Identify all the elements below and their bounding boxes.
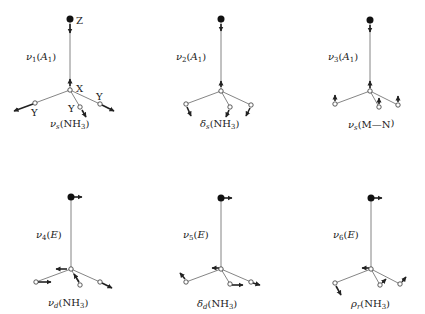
mode-caption: νs(M—N) — [348, 117, 395, 132]
hydrogen-atom — [377, 105, 381, 109]
metal-atom — [367, 17, 374, 24]
displacement-arrow — [253, 283, 260, 285]
hydrogen-atom — [378, 283, 382, 287]
displacement-arrow — [187, 107, 191, 116]
hydrogen-atom — [333, 102, 337, 106]
hydrogen-atom — [33, 101, 37, 105]
displacement-arrow — [246, 108, 250, 116]
displacement-arrow — [336, 286, 341, 295]
hydrogen-atom — [333, 281, 337, 285]
hydrogen-atom — [98, 280, 102, 284]
mode-caption: δd(NH3) — [197, 298, 237, 311]
mode-label: ν1(A1) — [26, 51, 56, 64]
mode-caption: ρr(NH3) — [350, 298, 390, 311]
axis-label-z: Z — [76, 15, 83, 26]
normal-modes-diagram: Z X Y Y Y ν1(A1) νs(NH3) ν2(A1) δs(NH3) — [0, 0, 425, 314]
hydrogen-atom — [249, 103, 253, 107]
mode-panel-nu2: ν2(A1) δs(NH3) — [176, 16, 253, 132]
n-h-bond — [221, 269, 251, 282]
displacement-arrow — [82, 110, 86, 117]
hydrogen-atom — [184, 102, 188, 106]
mode-label: ν2(A1) — [176, 51, 206, 64]
mode-caption: νs(NH3) — [50, 118, 90, 131]
n-h-bond — [335, 269, 371, 283]
mode-panel-nu4: ν4(E) νd(NH3) — [34, 194, 112, 311]
nitrogen-atom — [68, 88, 72, 92]
mode-panel-nu3: ν3(A1) νs(M—N) — [328, 17, 400, 133]
displacement-arrow — [74, 274, 79, 282]
mode-label: ν5(E) — [183, 229, 209, 242]
n-h-bond — [36, 269, 71, 282]
displacement-arrow — [180, 273, 185, 279]
metal-atom — [368, 195, 375, 202]
displacement-arrow — [402, 277, 406, 282]
mode-label: ν4(E) — [36, 229, 62, 242]
nitrogen-atom — [219, 267, 223, 271]
nitrogen-atom — [369, 267, 373, 271]
metal-atom — [218, 195, 225, 202]
hydrogen-atom — [34, 280, 38, 284]
n-h-bond — [186, 91, 221, 104]
axis-label-y: Y — [67, 103, 75, 114]
mode-label: ν6(E) — [333, 229, 359, 242]
displacement-arrow — [226, 110, 229, 117]
hydrogen-atom — [228, 105, 232, 109]
metal-atom — [67, 16, 74, 23]
hydrogen-atom — [98, 102, 102, 106]
hydrogen-atom — [184, 280, 188, 284]
n-h-bond — [35, 90, 70, 103]
hydrogen-atom — [249, 280, 253, 284]
hydrogen-atom — [78, 105, 82, 109]
hydrogen-atom — [398, 282, 402, 286]
nitrogen-atom — [69, 267, 73, 271]
displacement-arrow — [382, 279, 386, 283]
axis-label-y: Y — [30, 107, 38, 118]
n-h-bond — [221, 91, 251, 105]
displacement-arrow — [102, 105, 114, 111]
metal-atom — [68, 194, 75, 201]
nitrogen-atom — [219, 89, 223, 93]
hydrogen-atom — [228, 282, 232, 286]
mode-panel-nu5: ν5(E) δd(NH3) — [180, 195, 260, 312]
mode-label: ν3(A1) — [328, 51, 358, 64]
mode-panel-nu6: ν6(E) ρr(NH3) — [333, 195, 406, 312]
nitrogen-atom — [368, 89, 372, 93]
n-h-bond — [186, 269, 221, 282]
hydrogen-atom — [396, 103, 400, 107]
n-h-bond — [335, 91, 370, 104]
hydrogen-atom — [78, 283, 82, 287]
mode-caption: νd(NH3) — [48, 297, 88, 310]
mode-caption: δs(NH3) — [200, 118, 239, 131]
metal-atom — [218, 16, 225, 23]
mode-panel-nu1: Z X Y Y Y ν1(A1) νs(NH3) — [14, 15, 114, 131]
axis-label-y: Y — [95, 91, 103, 102]
axis-label-x: X — [76, 83, 84, 94]
displacement-arrow — [102, 283, 112, 288]
